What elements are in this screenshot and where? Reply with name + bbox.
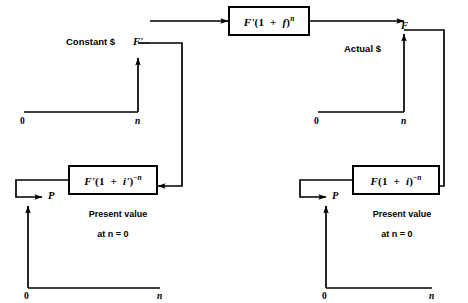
box-present-value-constant: F'(1 + i')−n <box>68 165 158 195</box>
axis-origin-actual-present: 0 <box>322 291 327 302</box>
formula-future-worth-actual: F'(1 + f)n <box>244 14 295 28</box>
wire-present-value-constant-to-P <box>16 180 68 197</box>
caption-line-2: at n = 0 <box>63 229 163 239</box>
axis-end-constant-future: n <box>135 116 140 127</box>
wire-F-to-present-value <box>404 30 444 186</box>
caption-line-1: Present value <box>89 209 148 219</box>
diagram-canvas: F'(1 + f)n F'(1 + i')−n F(1 + i)−n Const… <box>0 0 468 303</box>
wire-present-value-actual-to-P <box>300 180 352 197</box>
label-constant-dollars: Constant $ <box>66 37 115 48</box>
axis-origin-actual-future: 0 <box>314 116 319 127</box>
axis-origin-constant-future: 0 <box>20 116 25 127</box>
box-present-value-actual: F(1 + i)−n <box>352 165 440 195</box>
label-P-constant: P <box>48 190 54 202</box>
formula-present-value-actual: F(1 + i)−n <box>371 173 422 187</box>
formula-present-value-constant: F'(1 + i')−n <box>84 173 142 187</box>
caption-present-value-actual: Present value at n = 0 <box>347 199 447 259</box>
axis-end-constant-present: n <box>157 291 162 302</box>
label-P-actual: P <box>332 190 338 202</box>
caption-line-2: at n = 0 <box>347 229 447 239</box>
caption-line-1: Present value <box>373 209 432 219</box>
label-F-prime: F' <box>133 36 143 48</box>
box-future-worth-actual: F'(1 + f)n <box>228 6 310 36</box>
axis-origin-constant-present: 0 <box>24 291 29 302</box>
axis-end-actual-present: n <box>429 291 434 302</box>
axis-end-actual-future: n <box>401 116 406 127</box>
label-actual-dollars: Actual $ <box>344 44 381 55</box>
caption-present-value-constant: Present value at n = 0 <box>63 199 163 259</box>
label-F: F <box>401 20 408 32</box>
